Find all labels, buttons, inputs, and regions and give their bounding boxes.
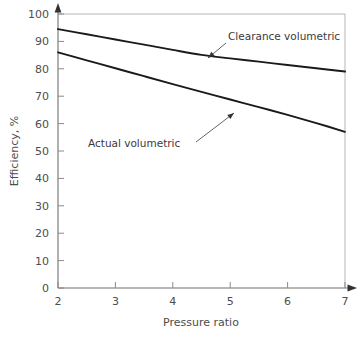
x-tick-label: 5 [227,295,234,308]
x-tick-group: 234567 [55,282,349,308]
y-tick-label: 40 [35,172,49,185]
x-tick-label: 6 [284,295,291,308]
x-tick-label: 7 [342,295,349,308]
y-tick-label: 80 [35,63,49,76]
y-tick-label: 10 [35,255,49,268]
y-tick-label: 60 [35,118,49,131]
leader-arrowhead [227,113,234,119]
y-axis-title: Efficiency, % [8,116,21,186]
y-tick-label: 90 [35,35,49,48]
x-tick-label: 3 [112,295,119,308]
x-axis [58,285,357,292]
x-axis-title: Pressure ratio [163,316,239,329]
data-curves [58,29,345,132]
y-tick-group: 0102030405060708090100 [28,8,64,295]
leader-line [196,113,234,142]
y-tick-label: 0 [42,282,49,295]
curve-label-clearance-volumetric: Clearance volumetric [228,30,340,42]
y-tick-label: 20 [35,227,49,240]
x-tick-label: 2 [55,295,62,308]
y-axis-arrow [55,3,62,13]
curve-actual-volumetric [58,52,345,131]
y-tick-label: 30 [35,200,49,213]
efficiency-vs-pressure-ratio-chart: 0102030405060708090100 234567 Clearance … [0,0,363,344]
y-axis [55,3,62,288]
y-tick-label: 100 [28,8,49,21]
y-tick-label: 70 [35,90,49,103]
figure-container: 0102030405060708090100 234567 Clearance … [0,0,363,344]
curve-label-actual-volumetric: Actual volumetric [88,137,180,149]
y-tick-label: 50 [35,145,49,158]
x-axis-arrow [348,285,358,292]
x-tick-label: 4 [169,295,176,308]
